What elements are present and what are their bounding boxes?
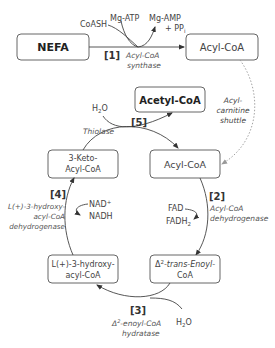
acyl-coa-top-label: Acyl-CoA	[200, 42, 245, 53]
step4-number: [4]	[50, 189, 66, 200]
node-acyl-coa-mid: Acyl-CoA	[150, 150, 220, 178]
enoyl-coa-line2: CoA	[177, 271, 193, 280]
keto-acyl-coa-line1: 3-Keto-	[69, 154, 98, 163]
nad-curve	[76, 204, 88, 215]
atp-amp-curve	[121, 21, 155, 47]
step1-number: [1]	[104, 50, 120, 61]
ppi-label: + PPi	[165, 24, 186, 34]
nad-label: NAD+	[89, 199, 112, 209]
step3-enzyme-line1: Δ2-enoyl-CoA	[111, 318, 161, 328]
beta-oxidation-diagram: NEFA Acyl-CoA CoASH Mg-ATP Mg-AMP + PPi …	[0, 0, 275, 348]
step5-number: [5]	[131, 117, 147, 128]
step3-h2o: H2O	[176, 318, 192, 328]
arrow-step4	[65, 178, 74, 255]
nefa-label: NEFA	[37, 41, 69, 54]
node-keto-acyl-coa: 3-Keto- Acyl-CoA	[48, 150, 118, 178]
enoyl-coa-line1: Δ2-trans-Enoyl-	[155, 259, 215, 269]
step5-enzyme: Thiolase	[83, 127, 115, 136]
step3-enzyme-line2: hydratase	[122, 329, 160, 338]
step1-enzyme-line2: synthase	[127, 61, 161, 70]
shuttle-line3: shuttle	[220, 116, 246, 125]
node-hydroxy-acyl-coa: L(+)-3-hydroxy- acyl-CoA	[48, 255, 118, 283]
step2-number: [2]	[209, 191, 225, 202]
arrow-step2	[196, 178, 208, 255]
node-acetyl-coa: Acetyl-CoA	[135, 87, 205, 112]
mg-amp-label: Mg-AMP	[149, 14, 181, 23]
fad-label: FAD	[168, 204, 184, 213]
step4-enzyme-line3: dehydrogenase	[9, 222, 65, 231]
step3-number: [3]	[130, 305, 146, 316]
fadh2-label: FADH2	[166, 217, 191, 227]
mg-atp-label: Mg-ATP	[110, 14, 139, 23]
shuttle-line1: Acyl-	[223, 96, 243, 105]
h2o-curve-step3	[150, 298, 182, 309]
step5-h2o: H2O	[92, 104, 108, 114]
step2-enzyme-line1: Acyl-CoA	[209, 204, 243, 213]
keto-acyl-coa-line2: Acyl-CoA	[65, 165, 101, 174]
step4-enzyme-line2: acyl-CoA	[33, 212, 65, 221]
step1-enzyme-line1: Acyl-CoA	[125, 51, 159, 60]
arrow-step3	[97, 283, 170, 297]
shuttle-line2: carnitine	[216, 106, 249, 115]
node-enoyl-coa: Δ2-trans-Enoyl- CoA	[150, 255, 220, 283]
node-nefa: NEFA	[17, 34, 89, 60]
hydroxy-acyl-coa-line2: acyl-CoA	[65, 271, 101, 280]
coash-label: CoASH	[80, 20, 107, 29]
acyl-coa-mid-label: Acyl-CoA	[164, 159, 207, 170]
hydroxy-acyl-coa-line1: L(+)-3-hydroxy-	[51, 260, 114, 269]
node-acyl-coa-top: Acyl-CoA	[186, 34, 258, 60]
nadh-label: NADH	[89, 212, 113, 221]
step4-enzyme-line1: L(+)-3-hydroxy-	[8, 202, 65, 211]
step2-enzyme-line2: dehydrogenase	[210, 214, 269, 223]
acetyl-coa-label: Acetyl-CoA	[139, 95, 201, 106]
